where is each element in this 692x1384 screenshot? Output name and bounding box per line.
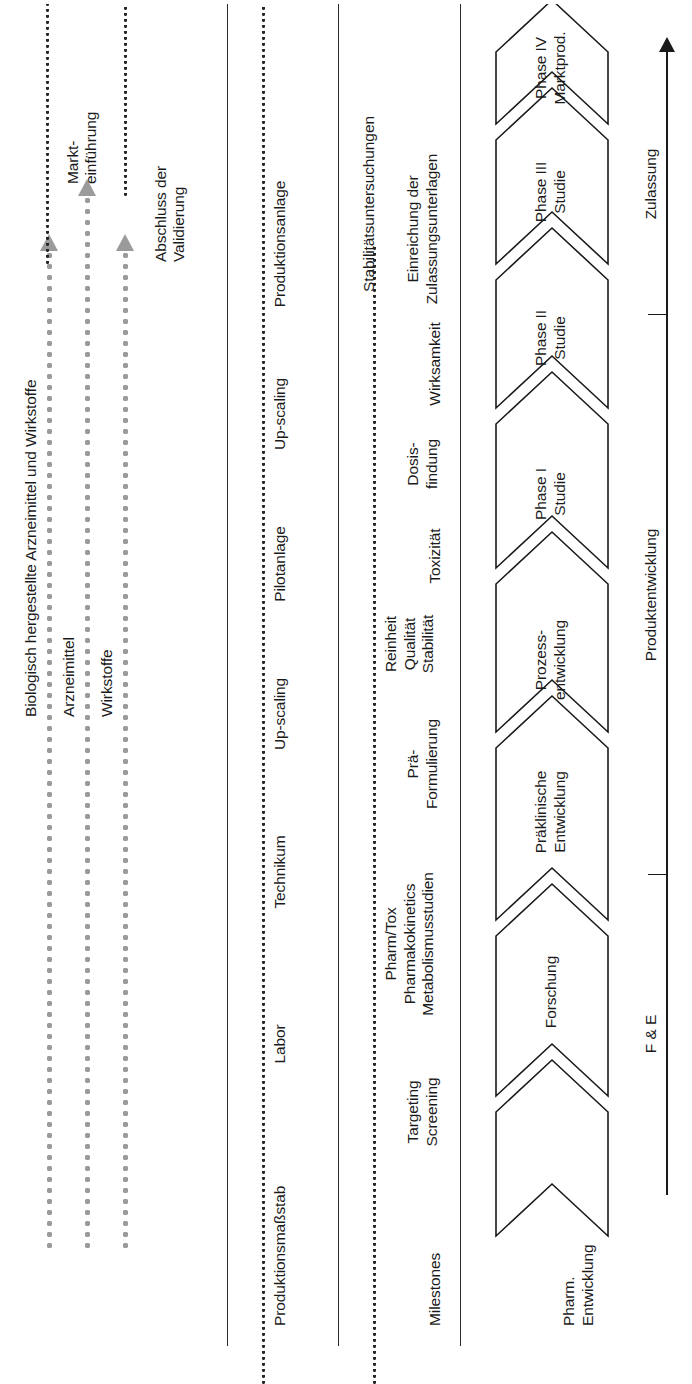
lane-produktionsmassstab: Produktionsmaßstab Labor Technikum Up-sc… [227,0,338,1384]
milestone-rule-markteinfuehrung-ext [262,0,265,1384]
arrow-track-dots [122,249,129,1249]
time-axis-arrow-icon [659,37,675,52]
milestone-reinheit-qualitaet-stabilitaet: Reinheit Qualität Stabilität [382,615,438,673]
chevron-pharm-entwicklung [496,1060,608,1236]
milestone-pharm-tox: Pharm/Tox Pharmakokinetics Metabolismuss… [382,872,438,1016]
arrow-head-icon [116,234,134,251]
phase-label-phase-iii: Phase III Studie [532,162,569,222]
process-diagram-canvas: Wirkstoffe Arzneimittel Biologisch herge… [0,0,692,1384]
stage-up-scaling-2: Up-scaling [271,378,289,450]
arrow-track-arzneimittel [84,194,91,1249]
phase-label-phase-iv: Phase IV Marktprod. [532,31,569,104]
lane-milestones: Milestones Targeting Screening Pharm/Tox… [338,0,460,1384]
arrow-track-dots [84,194,91,1249]
row-header-produktionsmassstab: Produktionsmaßstab [271,1186,289,1326]
milestone-wirksamkeit: Wirksamkeit [426,322,444,405]
milestone-targeting-screening: Targeting Screening [404,1078,441,1147]
arrow-track-biologisch [46,249,53,1249]
phase-label-praeklinische: Präklinische Entwicklung [532,771,569,853]
axis-segment-f-und-e: F & E [642,1015,660,1053]
row-header-milestones: Milestones [426,1253,444,1326]
time-axis: F & E Produktentwicklung Zulassung [640,0,692,1384]
stage-pilotanlage: Pilotanlage [271,526,289,602]
milestone-prae-formulierung: Prä- Formulierung [404,719,441,809]
lane-arrow-tracks: Wirkstoffe Arzneimittel Biologisch herge… [0,0,227,1384]
milestone-dosisfindung: Dosis- findung [404,439,441,489]
arrow-track-label-arzneimittel: Arzneimittel [60,637,78,717]
time-axis-line [666,50,668,1195]
phase-label-phase-i: Phase I Studie [532,468,569,520]
phase-label-prozessentwicklung: Prozess- entwicklung [532,620,569,700]
stage-up-scaling-1: Up-scaling [271,678,289,750]
stage-technikum: Technikum [271,835,289,908]
arrow-track-label-wirkstoffe: Wirkstoffe [98,649,116,717]
axis-segment-produktentwicklung: Produktentwicklung [642,529,660,662]
milestone-rule-markteinfuehrung-ext2 [373,244,376,1384]
callout-markteinfuehrung: Markt- einführung [64,4,101,184]
milestone-toxizitaet: Toxizität [426,528,444,583]
stage-labor: Labor [271,1024,289,1063]
milestone-rule-markteinfuehrung [124,0,127,196]
stage-produktionsanlage: Produktionsanlage [271,181,289,308]
arrow-track-dots [46,249,53,1249]
axis-segment-zulassung: Zulassung [642,149,660,220]
arrow-track-label-biologisch: Biologisch hergestellte Arzneimittel und… [22,380,40,718]
phase-label-forschung: Forschung [542,956,560,1028]
page-top-crop-edge [0,0,692,4]
time-axis-tick-2 [648,314,667,315]
milestone-einreichung-zulassungsunterlagen: Einreichung der Zulassungsunterlagen [404,154,441,305]
time-axis-tick-1 [648,874,667,875]
callout-abschluss-validierung: Abschluss der Validierung [152,42,189,262]
arrow-track-wirkstoffe [122,249,129,1249]
phase-label-phase-ii: Phase II Studie [532,310,569,366]
milestone-rule-validierung [46,0,49,264]
